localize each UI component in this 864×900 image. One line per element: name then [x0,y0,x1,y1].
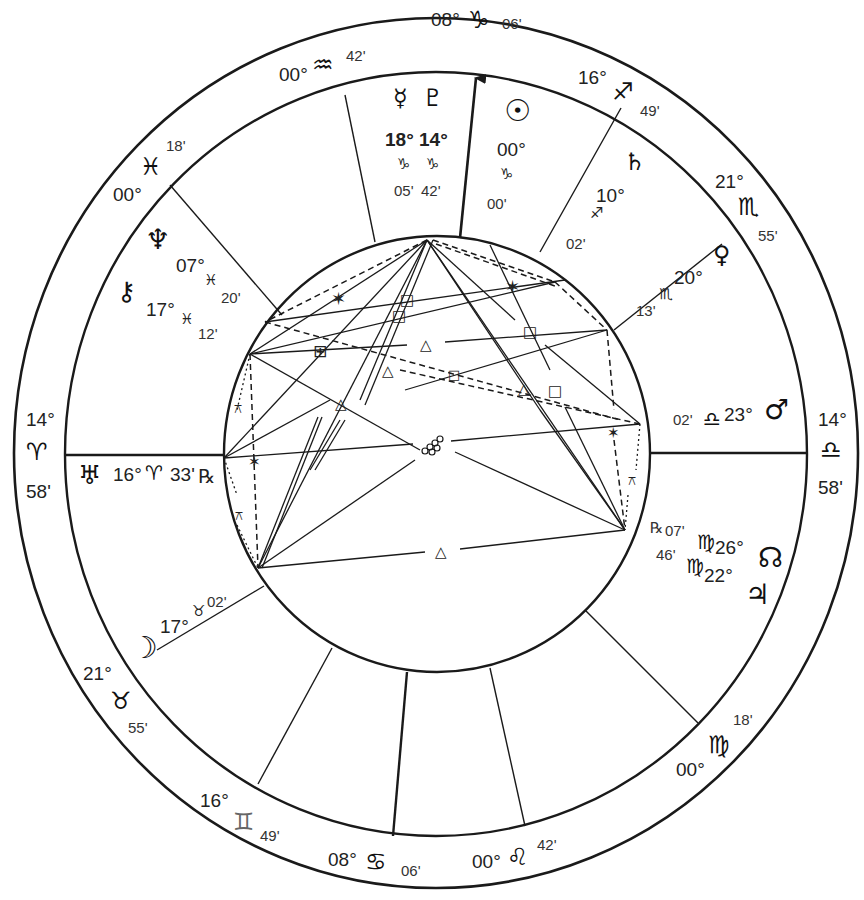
planet-minutes: 20' [221,290,241,305]
planet-degree: 17° [146,300,175,319]
retrograde-icon: ℞ [650,520,663,535]
planet-degree: 16° [113,465,142,484]
planet-degree: 10° [596,186,625,205]
aspect-circle [224,236,650,672]
planet-degree: 14° [419,130,448,149]
trine-icon: △ [435,545,447,560]
ic-line [393,672,407,836]
square-icon: □ [548,384,562,399]
cusp-minutes: 06' [401,863,421,878]
planet-minutes: 12' [198,326,218,341]
libra-icon: ♎ [703,409,721,429]
planet-degree: 17° [160,617,189,636]
cusp-degree: 00° [472,852,501,871]
sextile-icon: ✶ [331,290,346,308]
planet-minutes: 42' [421,183,441,198]
planet-minutes: 02' [207,594,227,609]
square-icon: □ [400,293,414,308]
cusp-degree: 14° [818,410,847,429]
scorpio-icon: ♏ [738,195,760,219]
planet-minutes: 33' [170,465,195,484]
multi-square-icon: ⊞ [313,343,327,360]
sun-icon: ☉ [504,96,531,126]
cusp-minutes: 42' [537,837,557,852]
cusp-degree: 21° [715,172,744,191]
planet-degree: 00° [497,140,526,159]
cusp-minutes: 49' [640,103,660,118]
cusp-degree: 21° [83,664,112,683]
libra-icon: ♎ [820,438,842,462]
cancer-icon: ♋ [365,850,387,874]
cusp-minutes: 18' [166,138,186,153]
quincunx-icon: ⚻ [628,475,636,487]
chiron-icon: ⚷ [117,278,136,304]
saturn-icon: ♄ [624,150,646,174]
square-icon: □ [392,309,406,324]
cusp-degree: 16° [578,68,607,87]
planet-degree: 22° [704,566,733,585]
trine-icon: △ [420,338,432,353]
taurus-icon: ♉ [110,689,132,713]
sextile-icon: ✶ [505,278,520,296]
square-icon: □ [523,325,537,340]
cusp-minutes: 58' [26,482,51,501]
aries-icon: ♈ [145,463,163,483]
pluto-icon: ♇ [422,86,444,110]
virgo-icon: ♍ [686,556,704,576]
cusp-minutes: 58' [818,478,843,497]
cusp-degree: 08° [328,850,357,869]
aquarius-icon: ♒ [312,53,334,77]
uranus-icon: ♅ [78,462,101,488]
planet-minutes: 13' [636,303,656,318]
planet-minutes: 05' [394,183,414,198]
pisces-icon: ♓ [204,273,217,288]
cusp-degree: 00° [279,65,308,84]
planet-degree: 20° [674,268,703,287]
cusp-minutes: 42' [346,48,366,63]
cusp-degree: 08° [431,10,460,29]
planet-degree: 23° [724,405,753,424]
pisces-icon: ♓ [180,312,193,327]
cusp-minutes: 55' [758,228,778,243]
jupiter-icon: ♃ [745,581,770,609]
virgo-icon: ♍ [708,733,730,757]
mc-line [460,78,476,238]
cusp-degree: 14° [26,410,55,429]
gemini-icon: ♊ [233,810,255,834]
virgo-icon: ♍ [697,532,715,552]
leo-icon: ♌ [507,845,529,869]
capricorn-icon: ♑ [397,157,410,172]
capricorn-icon: ♑ [426,157,439,172]
aries-icon: ♈ [26,440,48,464]
mars-icon: ♂ [764,396,789,424]
venus-icon: ♀ [713,243,731,267]
planet-minutes: 02' [566,236,586,251]
trine-icon: △ [518,382,530,397]
planet-minutes: 46' [656,547,676,562]
trine-icon: △ [382,364,394,379]
scorpio-icon: ♏ [659,287,672,302]
mercury-icon: ☿ [393,86,408,110]
planet-minutes: 00' [487,196,507,211]
pisces-icon: ♓ [140,155,162,179]
cusp-degree: 16° [200,791,229,810]
planet-degree: 26° [715,538,744,557]
north-node-icon: ☊ [758,544,783,572]
sextile-icon: ✶ [607,426,620,441]
retrograde-icon: ℞ [198,467,215,486]
planet-degree: 07° [176,256,205,275]
trine-icon: △ [335,397,347,412]
square-icon: □ [448,368,460,381]
quincunx-icon: ⚻ [235,510,243,522]
taurus-icon: ♉ [192,604,205,619]
cusp-degree: 00° [676,760,705,779]
quincunx-icon: ⚻ [234,403,242,415]
sagittarius-icon: ♐ [612,80,634,104]
capricorn-icon: ♑ [468,8,490,32]
cusp-minutes: 18' [733,712,753,727]
capricorn-icon: ♑ [500,167,513,182]
planet-degree: 18° [385,130,414,149]
conjunction-cluster-icon [422,436,443,455]
planet-minutes: 02' [673,412,693,427]
minor-aspect-lines [250,240,640,568]
